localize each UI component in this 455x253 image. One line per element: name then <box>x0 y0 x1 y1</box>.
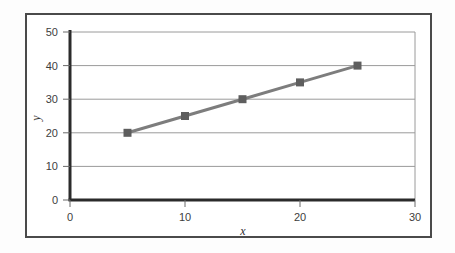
y-tick-label: 10 <box>46 160 58 172</box>
x-tick-label: 20 <box>294 211 306 223</box>
y-axis-title: y <box>29 115 43 122</box>
data-point-marker <box>239 95 247 103</box>
y-tick-label: 30 <box>46 93 58 105</box>
y-tick-label: 40 <box>46 60 58 72</box>
data-point-marker <box>124 129 132 137</box>
data-point-marker <box>296 78 304 86</box>
x-axis-title: x <box>239 224 246 238</box>
y-tick-label: 20 <box>46 127 58 139</box>
x-tick-label: 0 <box>67 211 73 223</box>
chart-figure: 50 40 30 20 10 0 0 10 20 30 y x <box>0 0 455 253</box>
x-tick-label: 30 <box>409 211 421 223</box>
x-tick-label: 10 <box>179 211 191 223</box>
y-tick-label: 0 <box>52 194 58 206</box>
data-point-marker <box>181 112 189 120</box>
chart-plot-area: 50 40 30 20 10 0 0 10 20 30 y x <box>0 0 455 253</box>
data-point-marker <box>354 62 362 70</box>
y-tick-label: 50 <box>46 26 58 38</box>
